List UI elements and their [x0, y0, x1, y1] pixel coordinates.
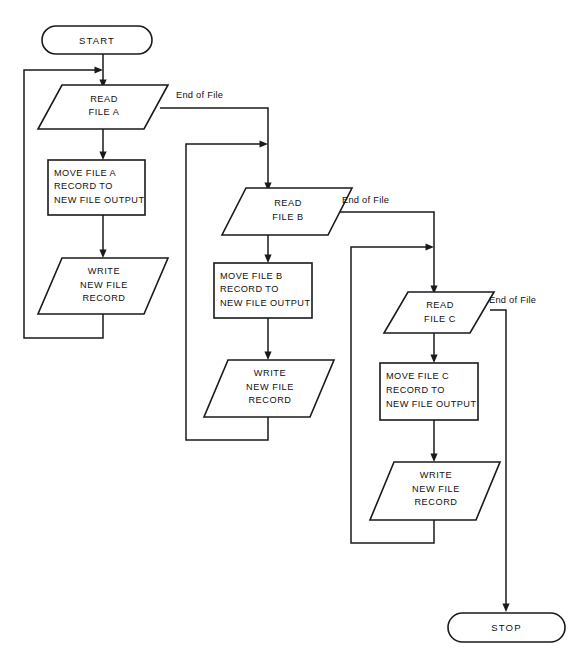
move-file-b-label-line3: NEW FILE OUTPUT	[220, 298, 310, 308]
process-write-new-file-record-a[interactable]: WRITE NEW FILE RECORD	[38, 258, 168, 314]
write-record-a-label-line3: RECORD	[82, 293, 125, 303]
arrowhead-move-b	[264, 255, 271, 264]
move-file-b-label-line2: RECORD TO	[220, 284, 279, 294]
read-file-c-shape	[384, 292, 494, 333]
process-write-new-file-record-c[interactable]: WRITE NEW FILE RECORD	[370, 462, 500, 520]
connector-eof-b	[330, 212, 434, 266]
arrowhead-loop-a	[95, 66, 104, 73]
read-file-c-label-line2: FILE C	[424, 314, 456, 324]
move-file-b-label-line1: MOVE FILE B	[220, 271, 283, 281]
read-file-c-label-line1: READ	[426, 300, 454, 310]
process-move-file-b[interactable]: MOVE FILE B RECORD TO NEW FILE OUTPUT	[214, 263, 312, 318]
move-file-c-label-line3: NEW FILE OUTPUT	[386, 399, 476, 409]
read-file-a-label-line1: READ	[90, 94, 118, 104]
write-record-c-label-line2: NEW FILE	[412, 484, 460, 494]
move-file-a-label-line3: NEW FILE OUTPUT	[54, 195, 144, 205]
arrowhead-loop-c	[426, 243, 435, 250]
process-read-file-a[interactable]: READ FILE A	[38, 85, 168, 129]
flowchart-canvas: START READ FILE A MOVE FILE A RECORD TO …	[0, 0, 582, 657]
move-file-c-label-line1: MOVE FILE C	[386, 371, 449, 381]
write-record-b-label-line3: RECORD	[248, 395, 291, 405]
process-write-new-file-record-b[interactable]: WRITE NEW FILE RECORD	[204, 360, 334, 417]
move-file-a-label-line1: MOVE FILE A	[54, 168, 117, 178]
arrowhead-write-b	[264, 352, 271, 361]
move-file-a-label-line2: RECORD TO	[54, 181, 113, 191]
process-read-file-c[interactable]: READ FILE C	[384, 292, 494, 333]
write-record-a-label-line2: NEW FILE	[80, 280, 128, 290]
connector-eof-a	[160, 108, 268, 163]
arrowhead-write-c	[430, 454, 437, 463]
process-read-file-b[interactable]: READ FILE B	[222, 188, 352, 235]
process-move-file-c[interactable]: MOVE FILE C RECORD TO NEW FILE OUTPUT	[380, 363, 478, 420]
arrowhead-stop	[502, 604, 509, 613]
move-file-c-label-line2: RECORD TO	[386, 385, 445, 395]
write-record-c-label-line1: WRITE	[420, 470, 452, 480]
terminal-stop[interactable]: STOP	[448, 613, 565, 642]
connector-eof-c-to-stop	[490, 310, 506, 607]
arrowhead-move-c	[430, 355, 437, 364]
edge-label-end-of-file-c: End of File	[489, 295, 536, 305]
write-record-b-label-line2: NEW FILE	[246, 382, 294, 392]
edge-label-end-of-file-b: End of File	[342, 195, 389, 205]
terminal-start[interactable]: START	[42, 26, 152, 54]
read-file-a-label-line2: FILE A	[89, 107, 120, 117]
write-record-b-label-line1: WRITE	[254, 368, 286, 378]
process-move-file-a[interactable]: MOVE FILE A RECORD TO NEW FILE OUTPUT	[48, 160, 145, 215]
terminal-start-label: START	[79, 35, 115, 46]
arrowhead-loop-b	[260, 140, 269, 147]
write-record-a-label-line1: WRITE	[88, 266, 120, 276]
arrowhead-move-a	[99, 152, 106, 161]
write-record-c-label-line3: RECORD	[414, 497, 457, 507]
flowchart-svg: START READ FILE A MOVE FILE A RECORD TO …	[0, 0, 582, 657]
read-file-b-label-line1: READ	[274, 198, 302, 208]
read-file-b-label-line2: FILE B	[272, 212, 303, 222]
arrowhead-write-a	[99, 250, 106, 259]
terminal-stop-label: STOP	[491, 622, 521, 633]
edge-label-end-of-file-a: End of File	[176, 90, 223, 100]
